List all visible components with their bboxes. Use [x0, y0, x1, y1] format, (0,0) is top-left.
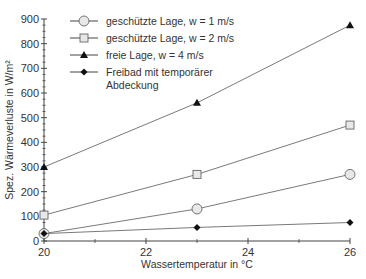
legend-label: Freibad mit temporärer — [106, 66, 213, 78]
series-diamond — [41, 219, 354, 237]
y-tick-label: 400 — [21, 136, 39, 148]
legend-item: geschützte Lage, w = 1 m/s — [70, 15, 234, 27]
legend-label: freie Lage, w = 4 m/s — [106, 49, 204, 61]
data-point — [346, 21, 354, 28]
x-tick-label: 22 — [140, 246, 152, 258]
legend-item: freie Lage, w = 4 m/s — [70, 49, 204, 61]
legend-item: geschützte Lage, w = 2 m/s — [70, 32, 234, 44]
legend-label: geschützte Lage, w = 1 m/s — [106, 15, 234, 27]
x-tick-label: 26 — [344, 246, 356, 258]
legend-label: geschützte Lage, w = 2 m/s — [106, 32, 234, 44]
chart: 010020030040050060070080090020222426 ges… — [0, 0, 366, 279]
y-tick-label: 900 — [21, 13, 39, 25]
data-point — [193, 170, 201, 178]
legend-marker — [81, 69, 88, 76]
y-tick-label: 200 — [21, 186, 39, 198]
x-tick-label: 24 — [242, 246, 254, 258]
y-tick-label: 800 — [21, 38, 39, 50]
data-point — [194, 224, 201, 231]
data-point — [193, 99, 201, 106]
y-tick-label: 300 — [21, 161, 39, 173]
data-point — [40, 211, 48, 219]
series-line — [44, 25, 350, 167]
y-tick-label: 700 — [21, 62, 39, 74]
legend-label: Abdeckung — [106, 79, 159, 91]
y-tick-label: 100 — [21, 210, 39, 222]
x-tick-label: 20 — [38, 246, 50, 258]
y-axis-label: Spez. Wärmeverluste in W/m² — [3, 60, 15, 200]
legend-marker — [79, 16, 89, 26]
data-point — [346, 121, 354, 129]
data-point — [345, 169, 355, 179]
y-tick-label: 600 — [21, 87, 39, 99]
y-tick-label: 500 — [21, 112, 39, 124]
legend-marker — [80, 34, 88, 42]
legend: geschützte Lage, w = 1 m/sgeschützte Lag… — [70, 15, 234, 91]
legend-item: Freibad mit temporärerAbdeckung — [70, 66, 213, 91]
data-point — [192, 204, 202, 214]
data-point — [347, 219, 354, 226]
x-axis-label: Wassertemperatur in °C — [141, 258, 253, 270]
